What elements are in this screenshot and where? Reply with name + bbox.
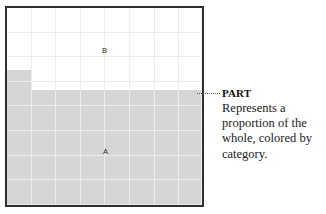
series-label-a: A xyxy=(103,148,108,156)
series-region-a-step xyxy=(7,70,31,91)
plot-area: B A xyxy=(7,8,202,205)
annotation-block: PART Represents a proportion of the whol… xyxy=(222,86,326,162)
chart-frame: B A xyxy=(5,6,204,207)
dotted-leader-line-icon xyxy=(197,93,220,95)
annotation-title: PART xyxy=(222,86,326,100)
diagram-canvas: B A PART Represents a proportion of the … xyxy=(0,0,326,214)
series-label-b: B xyxy=(102,47,107,55)
annotation-body: Represents a proportion of the whole, co… xyxy=(222,100,326,162)
